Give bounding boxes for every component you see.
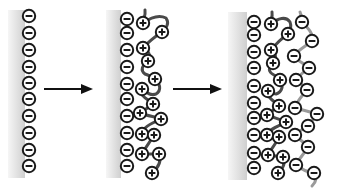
minus-icon bbox=[289, 129, 301, 141]
minus-icon bbox=[121, 13, 133, 25]
minus-icon bbox=[23, 93, 35, 105]
minus-icon bbox=[248, 147, 260, 159]
minus-icon bbox=[23, 27, 35, 39]
minus-icon bbox=[296, 16, 308, 28]
plus-icon bbox=[274, 74, 286, 86]
minus-icon bbox=[121, 144, 133, 156]
minus-icon bbox=[248, 112, 260, 124]
diagram-canvas bbox=[0, 0, 337, 193]
plus-icon bbox=[134, 107, 146, 119]
minus-icon bbox=[311, 108, 323, 120]
minus-icon bbox=[289, 102, 301, 114]
minus-icon bbox=[303, 62, 315, 74]
minus-icon bbox=[302, 120, 314, 132]
plus-icon bbox=[149, 73, 161, 85]
plus-icon bbox=[137, 42, 149, 54]
minus-icon bbox=[121, 44, 133, 56]
plus-icon bbox=[136, 128, 148, 140]
plus-icon bbox=[142, 55, 154, 67]
arrow-right-icon bbox=[44, 84, 93, 94]
minus-icon bbox=[121, 78, 133, 90]
minus-icon bbox=[301, 84, 313, 96]
minus-icon bbox=[121, 160, 133, 172]
minus-icon bbox=[248, 80, 260, 92]
arrow-right-icon bbox=[173, 84, 222, 94]
surface-polyanion-layer bbox=[228, 12, 247, 180]
minus-icon bbox=[121, 61, 133, 73]
minus-icon bbox=[306, 35, 318, 47]
minus-icon bbox=[290, 74, 302, 86]
plus-icon bbox=[146, 167, 158, 179]
plus-icon bbox=[156, 26, 168, 38]
minus-icon bbox=[23, 10, 35, 22]
minus-icon bbox=[23, 44, 35, 56]
plus-icon bbox=[280, 116, 292, 128]
plus-icon bbox=[262, 149, 274, 161]
lbl-adsorption-diagram bbox=[0, 0, 337, 193]
plus-icon bbox=[272, 167, 284, 179]
plus-icon bbox=[277, 151, 289, 163]
plus-icon bbox=[282, 28, 294, 40]
minus-icon bbox=[23, 144, 35, 156]
plus-icon bbox=[137, 17, 149, 29]
plus-icon bbox=[273, 100, 285, 112]
plus-icon bbox=[265, 18, 277, 30]
minus-icon bbox=[248, 46, 260, 58]
plus-icon bbox=[153, 148, 165, 160]
minus-icon bbox=[23, 127, 35, 139]
minus-icon bbox=[121, 27, 133, 39]
plus-icon bbox=[136, 83, 148, 95]
minus-icon bbox=[248, 97, 260, 109]
minus-icon bbox=[121, 127, 133, 139]
minus-icon bbox=[288, 50, 300, 62]
minus-icon bbox=[302, 141, 314, 153]
plus-icon bbox=[273, 131, 285, 143]
plus-icon bbox=[148, 129, 160, 141]
surface-polycation-layer bbox=[106, 10, 121, 178]
minus-icon bbox=[308, 167, 320, 179]
plus-icon bbox=[262, 85, 274, 97]
minus-icon bbox=[248, 62, 260, 74]
plus-icon bbox=[261, 129, 273, 141]
minus-icon bbox=[23, 77, 35, 89]
plus-icon bbox=[155, 113, 167, 125]
minus-icon bbox=[248, 29, 260, 41]
minus-icon bbox=[248, 129, 260, 141]
minus-icon bbox=[23, 110, 35, 122]
minus-icon bbox=[121, 93, 133, 105]
plus-icon bbox=[265, 44, 277, 56]
plus-icon bbox=[136, 148, 148, 160]
plus-icon bbox=[267, 57, 279, 69]
minus-icon bbox=[248, 162, 260, 174]
minus-icon bbox=[121, 110, 133, 122]
plus-icon bbox=[261, 109, 273, 121]
minus-icon bbox=[23, 160, 35, 172]
minus-icon bbox=[248, 16, 260, 28]
minus-icon bbox=[23, 61, 35, 73]
minus-icon bbox=[290, 159, 302, 171]
plus-icon bbox=[147, 98, 159, 110]
